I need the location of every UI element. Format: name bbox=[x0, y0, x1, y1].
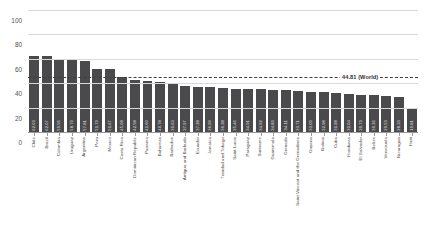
bar-slot: 62.03 bbox=[28, 10, 40, 132]
category-slot: Antigua and Barbuda bbox=[179, 133, 191, 213]
x-axis-tick bbox=[198, 133, 199, 136]
bar: 35.46 bbox=[231, 89, 241, 132]
bar-slot: 51.79 bbox=[91, 10, 103, 132]
bar-value-label: 37.28 bbox=[196, 120, 200, 131]
bar-slot: 51.67 bbox=[104, 10, 116, 132]
x-axis-tick bbox=[34, 133, 35, 136]
bar-value-label: 28.33 bbox=[397, 120, 401, 131]
bar: 30.36 bbox=[369, 95, 379, 132]
x-axis-category-label: Nicaragua bbox=[397, 137, 401, 158]
y-axis-tick-label: 40 bbox=[15, 90, 22, 97]
bar-value-label: 62.07 bbox=[45, 120, 49, 131]
category-slot: Brazil bbox=[41, 133, 53, 213]
x-axis-category-label: Mexico bbox=[108, 137, 112, 152]
category-slot: Bahamas bbox=[154, 133, 166, 213]
bar: 33.71 bbox=[293, 91, 303, 132]
bar-value-label: 57.81 bbox=[83, 120, 87, 131]
bar-value-label: 51.79 bbox=[95, 120, 99, 131]
x-axis-tick bbox=[160, 133, 161, 136]
category-slot: Panama bbox=[142, 133, 154, 213]
bar-slot: 36.99 bbox=[204, 10, 216, 132]
bar: 58.79 bbox=[67, 60, 77, 132]
x-axis-tick bbox=[59, 133, 60, 136]
bar: 34.92 bbox=[256, 89, 266, 132]
world-average-line-label: 44.81 (World) bbox=[340, 74, 380, 80]
category-slot: Nicaragua bbox=[393, 133, 405, 213]
bar-slot: 19.81 bbox=[406, 10, 418, 132]
bar-value-label: 34.91 bbox=[246, 120, 250, 131]
bar-slot: 41.60 bbox=[142, 10, 154, 132]
bar-value-label: 39.63 bbox=[171, 120, 175, 131]
bar-value-label: 34.83 bbox=[271, 120, 275, 131]
bar-value-label: 62.03 bbox=[32, 120, 36, 131]
bar-slot: 35.46 bbox=[230, 10, 242, 132]
bar-slot: 34.83 bbox=[267, 10, 279, 132]
bar-slot: 29.53 bbox=[381, 10, 393, 132]
bar-value-label: 45.08 bbox=[120, 120, 124, 131]
bar-slot: 34.92 bbox=[255, 10, 267, 132]
x-axis-tick bbox=[399, 133, 400, 136]
bar-slot: 30.73 bbox=[355, 10, 367, 132]
x-axis-tick bbox=[72, 133, 73, 136]
category-slot: Honduras bbox=[343, 133, 355, 213]
category-slot: Bolivia bbox=[318, 133, 330, 213]
bar-slot: 30.36 bbox=[368, 10, 380, 132]
bar-value-label: 35.46 bbox=[233, 120, 237, 131]
category-slot: Mexico bbox=[104, 133, 116, 213]
bar: 34.91 bbox=[243, 89, 253, 132]
bar: 37.28 bbox=[193, 87, 203, 132]
bar-value-label: 32.98 bbox=[322, 120, 326, 131]
category-slot: Guyana bbox=[305, 133, 317, 213]
x-axis-tick bbox=[412, 133, 413, 136]
category-slot: Uruguay bbox=[66, 133, 78, 213]
x-axis-category-label: El Salvador bbox=[359, 137, 363, 161]
bar-value-label: 37.97 bbox=[183, 120, 187, 131]
x-axis-category-label: Costa Rica bbox=[120, 137, 124, 159]
category-slot: Belize bbox=[368, 133, 380, 213]
x-axis-tick bbox=[122, 133, 123, 136]
category-slot: Trinidad and Tobago bbox=[217, 133, 229, 213]
bar-slot: 31.04 bbox=[343, 10, 355, 132]
bar-value-label: 42.58 bbox=[133, 120, 137, 131]
bar-slot: 33.09 bbox=[305, 10, 317, 132]
bar: 36.38 bbox=[218, 88, 228, 132]
x-axis-tick bbox=[336, 133, 337, 136]
y-axis-tick-label: 0 bbox=[18, 139, 22, 146]
gridline-60 bbox=[28, 59, 418, 60]
bar: 42.58 bbox=[130, 80, 140, 132]
x-axis-tick bbox=[85, 133, 86, 136]
x-axis-category-label: Argentina bbox=[82, 137, 86, 157]
bar: 57.81 bbox=[80, 61, 90, 132]
x-axis-category-label: Panama bbox=[145, 137, 149, 154]
x-axis-category-label: Honduras bbox=[347, 137, 351, 157]
bar-value-label: 34.11 bbox=[284, 120, 288, 130]
y-axis-tick-label: 60 bbox=[15, 65, 22, 72]
category-slot: Guatemala bbox=[267, 133, 279, 213]
bar-value-label: 33.09 bbox=[309, 120, 313, 131]
bar-value-label: 30.73 bbox=[359, 120, 363, 131]
bar-value-label: 58.79 bbox=[70, 120, 74, 131]
category-slot: Cuba bbox=[330, 133, 342, 213]
x-axis-tick bbox=[47, 133, 48, 136]
bar: 33.09 bbox=[306, 92, 316, 132]
x-axis-tick bbox=[361, 133, 362, 136]
x-axis-category-label: Paraguay bbox=[246, 137, 250, 157]
bar: 31.04 bbox=[344, 94, 354, 132]
bar-slot: 34.91 bbox=[242, 10, 254, 132]
x-axis-tick bbox=[185, 133, 186, 136]
x-axis-tick bbox=[147, 133, 148, 136]
bar-slot: 28.33 bbox=[393, 10, 405, 132]
x-axis-category-label: Chile bbox=[32, 137, 36, 148]
x-axis-category-label: Uruguay bbox=[70, 137, 74, 154]
y-axis-tick-label: 100 bbox=[11, 17, 22, 24]
x-axis-category-label: Belize bbox=[372, 137, 376, 150]
x-axis-tick bbox=[97, 133, 98, 136]
bar-value-label: 59.56 bbox=[57, 120, 61, 131]
bar: 51.67 bbox=[105, 69, 115, 132]
x-axis-category-label: Peru bbox=[95, 137, 99, 147]
x-axis-tick bbox=[210, 133, 211, 136]
x-axis-tick bbox=[110, 133, 111, 136]
category-slot: Costa Rica bbox=[116, 133, 128, 213]
bar-value-label: 41.60 bbox=[145, 120, 149, 131]
bar-value-label: 31.04 bbox=[347, 120, 351, 131]
